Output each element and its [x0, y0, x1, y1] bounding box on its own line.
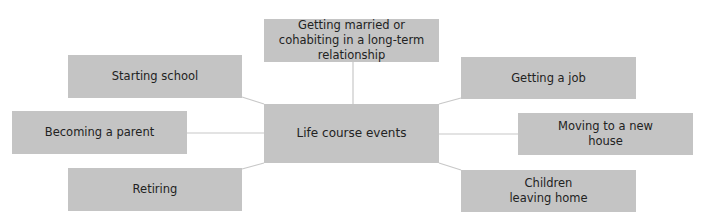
node-children-leaving: Children leaving home [461, 170, 636, 212]
node-starting-school: Starting school [68, 55, 242, 98]
link-school [242, 97, 264, 104]
node-getting-job: Getting a job [461, 57, 636, 99]
node-life-course-events: Life course events [264, 104, 439, 163]
node-moving-house: Moving to a new house [518, 113, 693, 155]
link-job [439, 98, 461, 104]
node-married: Getting married or cohabiting in a long-… [264, 19, 439, 62]
link-retiring [242, 163, 264, 169]
link-children [439, 163, 461, 170]
node-becoming-parent: Becoming a parent [12, 111, 187, 154]
node-retiring: Retiring [68, 168, 242, 211]
